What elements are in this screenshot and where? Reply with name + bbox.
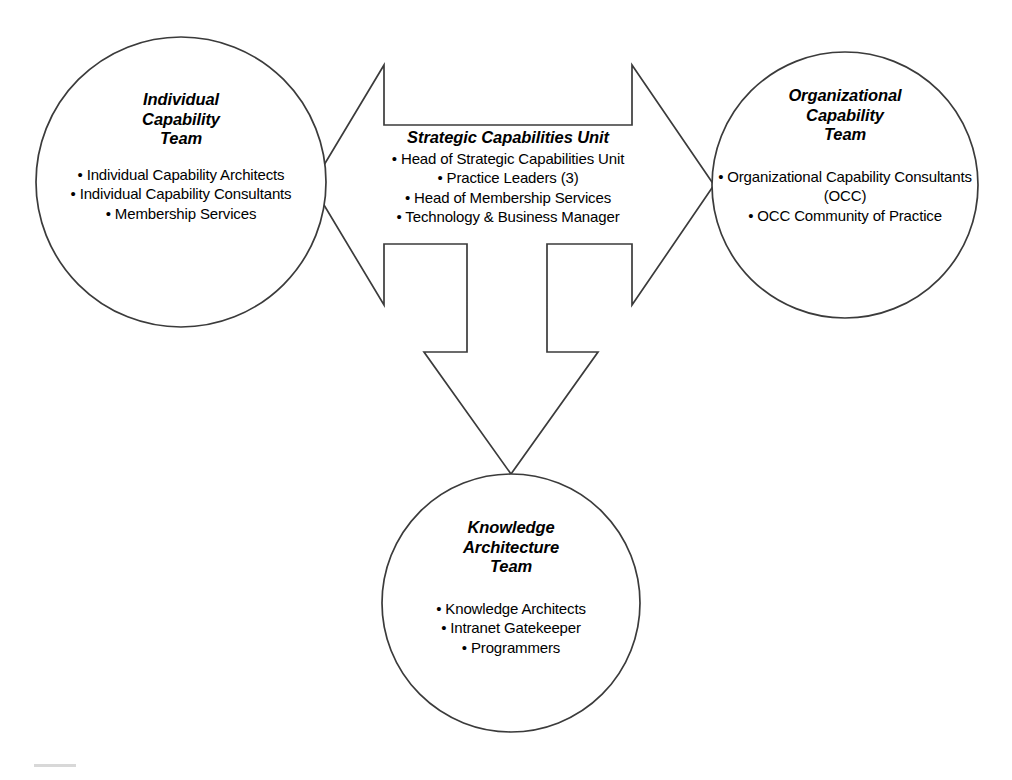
node-items-strategic-capabilities-unit: • Head of Strategic Capabilities Unit • …: [376, 149, 640, 227]
node-knowledge-architecture-team: Knowledge Architecture Team • Knowledge …: [382, 518, 640, 657]
arrow-hub-shape: [312, 65, 714, 474]
footer-rule: [34, 764, 76, 767]
list-item: • Knowledge Architects: [382, 599, 640, 619]
node-organizational-capability-team: Organizational Capability Team • Organiz…: [712, 86, 978, 225]
list-item: • Programmers: [382, 638, 640, 658]
node-strategic-capabilities-unit: Strategic Capabilities Unit • Head of St…: [376, 128, 640, 227]
list-item: • Practice Leaders (3): [376, 168, 640, 188]
list-item: • OCC Community of Practice: [712, 206, 978, 226]
node-items-knowledge-architecture-team: • Knowledge Architects • Intranet Gateke…: [382, 599, 640, 658]
node-title-organizational-capability-team: Organizational Capability Team: [712, 86, 978, 145]
node-individual-capability-team: Individual Capability Team • Individual …: [36, 90, 326, 223]
list-item: • Membership Services: [36, 204, 326, 224]
node-title-knowledge-architecture-team: Knowledge Architecture Team: [382, 518, 640, 577]
node-items-individual-capability-team: • Individual Capability Architects • Ind…: [36, 165, 326, 224]
node-title-strategic-capabilities-unit: Strategic Capabilities Unit: [376, 128, 640, 148]
diagram-canvas: Individual Capability Team • Individual …: [0, 0, 1012, 780]
list-item: • Intranet Gatekeeper: [382, 618, 640, 638]
list-item: • Organizational Capability Consultants …: [712, 167, 978, 206]
list-item: • Head of Membership Services: [376, 188, 640, 208]
list-item: • Technology & Business Manager: [376, 207, 640, 227]
list-item: • Individual Capability Architects: [36, 165, 326, 185]
node-items-organizational-capability-team: • Organizational Capability Consultants …: [712, 167, 978, 226]
list-item: • Individual Capability Consultants: [36, 184, 326, 204]
list-item: • Head of Strategic Capabilities Unit: [376, 149, 640, 169]
node-title-individual-capability-team: Individual Capability Team: [36, 90, 326, 149]
